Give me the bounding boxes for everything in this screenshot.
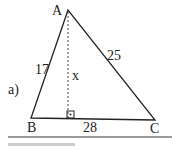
- triangle-abc: [31, 10, 155, 120]
- vertex-c-label: C: [150, 122, 159, 136]
- gray-bar: [8, 143, 75, 146]
- part-label: a): [8, 83, 19, 97]
- altitude-label: x: [72, 69, 79, 83]
- side-ab-label: 17: [35, 63, 49, 77]
- right-angle-dot: [70, 114, 72, 116]
- vertex-b-label: B: [27, 121, 36, 135]
- vertex-a-label: A: [52, 4, 62, 18]
- side-ac-label: 25: [107, 49, 121, 63]
- side-bc-label: 28: [83, 121, 97, 135]
